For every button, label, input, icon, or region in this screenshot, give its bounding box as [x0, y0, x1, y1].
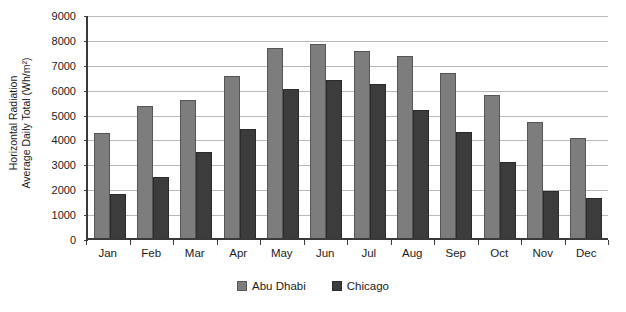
x-label-dec: Dec	[565, 247, 609, 265]
bar-chicago-apr	[240, 129, 256, 239]
legend-swatch-icon	[237, 281, 247, 291]
y-tick-label: 5000	[52, 110, 76, 122]
x-tick-mark	[608, 240, 609, 245]
y-tick-label: 7000	[52, 60, 76, 72]
bar-chicago-sep	[456, 132, 472, 238]
x-label-aug: Aug	[391, 247, 435, 265]
y-tick-label: 0	[70, 234, 76, 246]
x-label-oct: Oct	[478, 247, 522, 265]
x-label-nov: Nov	[521, 247, 565, 265]
legend-label: Abu Dhabi	[252, 280, 306, 292]
bar-group	[175, 16, 218, 238]
x-tick-mark	[434, 240, 435, 245]
bar-chicago-jul	[370, 84, 386, 238]
bar-group	[435, 16, 478, 238]
x-tick-mark	[478, 240, 479, 245]
x-axis-labels: JanFebMarAprMayJunJulAugSepOctNovDec	[86, 247, 608, 265]
bar-group	[521, 16, 564, 238]
y-axis-tick-labels: 0100020003000400050006000700080009000	[38, 10, 80, 242]
x-label-feb: Feb	[130, 247, 174, 265]
y-tick-label: 8000	[52, 35, 76, 47]
bar-abu-dhabi-oct	[484, 95, 500, 238]
x-tick-mark	[217, 240, 218, 245]
bar-chart: Horizontal Radiation Average Daily Total…	[0, 0, 626, 312]
legend-item-chicago[interactable]: Chicago	[332, 280, 389, 292]
legend-label: Chicago	[347, 280, 389, 292]
x-tick-mark	[304, 240, 305, 245]
x-tick-mark	[86, 240, 87, 245]
legend-swatch-icon	[332, 281, 342, 291]
bar-chicago-aug	[413, 110, 429, 238]
bar-group	[88, 16, 131, 238]
bar-group	[218, 16, 261, 238]
x-tick-mark	[260, 240, 261, 245]
x-label-jul: Jul	[347, 247, 391, 265]
bar-abu-dhabi-nov	[527, 122, 543, 238]
bar-abu-dhabi-sep	[440, 73, 456, 239]
bar-chicago-nov	[543, 191, 559, 238]
bar-abu-dhabi-jan	[94, 133, 110, 238]
bar-group	[478, 16, 521, 238]
y-axis-title-line-1: Horizontal Radiation	[7, 57, 20, 188]
x-tick-mark	[521, 240, 522, 245]
bar-group	[131, 16, 174, 238]
y-tick-label: 1000	[52, 209, 76, 221]
bar-chicago-jun	[326, 80, 342, 238]
x-label-sep: Sep	[434, 247, 478, 265]
bar-chicago-jan	[110, 194, 126, 238]
bar-group	[391, 16, 434, 238]
plot-area	[86, 16, 608, 240]
bar-chicago-dec	[586, 198, 602, 238]
bar-chicago-mar	[196, 152, 212, 238]
y-tick-label: 6000	[52, 85, 76, 97]
bar-abu-dhabi-dec	[570, 138, 586, 238]
bar-group	[305, 16, 348, 238]
y-tick-label: 4000	[52, 134, 76, 146]
y-axis-title: Horizontal Radiation Average Daily Total…	[0, 0, 40, 245]
x-tick-mark	[347, 240, 348, 245]
bars-layer	[88, 16, 608, 238]
y-tick-label: 9000	[52, 10, 76, 22]
bar-chicago-feb	[153, 177, 169, 238]
bar-abu-dhabi-apr	[224, 76, 240, 238]
x-tick-mark	[565, 240, 566, 245]
chart-legend: Abu DhabiChicago	[0, 280, 626, 292]
bar-chicago-may	[283, 89, 299, 238]
x-label-apr: Apr	[217, 247, 261, 265]
bar-abu-dhabi-jun	[310, 44, 326, 238]
bar-chicago-oct	[500, 162, 516, 238]
bar-group	[348, 16, 391, 238]
bar-abu-dhabi-feb	[137, 106, 153, 238]
y-tick-label: 2000	[52, 184, 76, 196]
x-tick-mark	[173, 240, 174, 245]
bar-abu-dhabi-mar	[180, 100, 196, 238]
x-label-jan: Jan	[86, 247, 130, 265]
legend-item-abu-dhabi[interactable]: Abu Dhabi	[237, 280, 306, 292]
y-tick-label: 3000	[52, 159, 76, 171]
bar-abu-dhabi-jul	[354, 51, 370, 238]
x-tick-mark	[130, 240, 131, 245]
bar-abu-dhabi-may	[267, 48, 283, 238]
x-label-mar: Mar	[173, 247, 217, 265]
x-axis-tick-marks	[86, 240, 608, 246]
y-axis-title-line-2: Average Daily Total (Wh/m²)	[20, 57, 33, 188]
bar-group	[565, 16, 608, 238]
x-tick-mark	[391, 240, 392, 245]
x-label-jun: Jun	[304, 247, 348, 265]
bar-group	[261, 16, 304, 238]
x-label-may: May	[260, 247, 304, 265]
bar-abu-dhabi-aug	[397, 56, 413, 238]
